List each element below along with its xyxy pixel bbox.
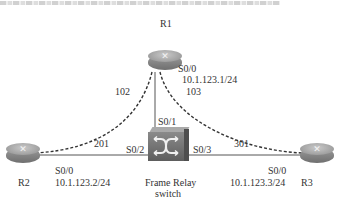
r3-interface: S0/0: [268, 165, 286, 176]
switch-port-s01: S0/1: [158, 116, 176, 127]
router-r3[interactable]: ✕: [300, 143, 334, 165]
dlci-201: 201: [94, 138, 109, 149]
router-arrows-icon: ✕: [15, 144, 31, 154]
switch-port-s03: S0/3: [193, 144, 211, 155]
dlci-103: 103: [186, 86, 201, 97]
switch-side: [184, 129, 189, 161]
dlci-102: 102: [115, 86, 130, 97]
router-r2[interactable]: ✕: [6, 143, 40, 165]
pvc-r1-r2: [34, 72, 152, 153]
r2-ip: 10.1.123.2/24: [55, 177, 110, 188]
r1-interface: S0/0: [178, 63, 196, 74]
r3-ip: 10.1.123.3/24: [230, 177, 285, 188]
switch-port-s02: S0/2: [126, 144, 144, 155]
router-arrows-icon: ✕: [157, 51, 173, 61]
router-r2-label: R2: [18, 177, 30, 188]
router-r1-label: R1: [160, 18, 172, 29]
r2-interface: S0/0: [55, 165, 73, 176]
router-arrows-icon: ✕: [309, 144, 325, 154]
switch-label-line1: Frame Relay: [145, 177, 196, 188]
dlci-301: 301: [234, 138, 249, 149]
frame-relay-switch[interactable]: [148, 127, 189, 161]
r1-ip: 10.1.123.1/24: [182, 74, 237, 85]
switch-label-line2: switch: [155, 188, 181, 199]
router-r1[interactable]: ✕: [148, 50, 182, 72]
switch-arrows-icon: [152, 135, 180, 157]
router-r3-label: R3: [301, 177, 313, 188]
